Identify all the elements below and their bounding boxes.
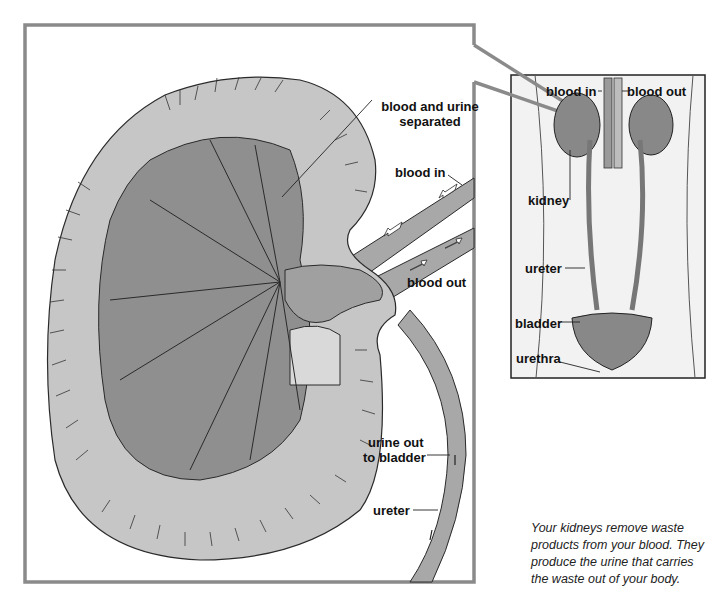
label-blood-out: blood out: [407, 275, 466, 290]
inset-label-kidney: kidney: [528, 193, 569, 208]
label-blood-urine-separated: blood and urine separated: [375, 99, 485, 129]
label-urine-out-line1: urine out: [368, 435, 424, 450]
inset-label-urethra: urethra: [516, 351, 561, 366]
renal-medulla: [99, 137, 310, 480]
caption-text: Your kidneys remove waste products from …: [531, 520, 711, 588]
label-blood-in: blood in: [395, 165, 446, 180]
kidney-cross-section: [48, 77, 475, 582]
label-urine-out-line2: to bladder: [363, 450, 426, 465]
right-kidney: [629, 95, 673, 155]
inset-label-ureter: ureter: [525, 261, 562, 276]
renal-sinus: [290, 326, 340, 385]
inset-label-blood-out: blood out: [627, 84, 686, 99]
left-kidney: [554, 93, 600, 157]
label-text: blood and urine separated: [375, 99, 485, 129]
inset-label-blood-in: blood in: [546, 84, 597, 99]
inset-label-bladder: bladder: [515, 316, 562, 331]
label-ureter-main: ureter: [373, 503, 410, 518]
